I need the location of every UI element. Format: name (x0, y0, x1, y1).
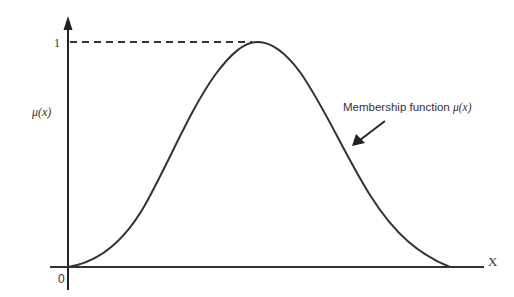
y-tick-label-1: 1 (54, 36, 60, 50)
y-axis-arrowhead (64, 16, 73, 30)
origin-label: 0 (58, 272, 65, 286)
annotation-arrow-line (360, 121, 385, 140)
annotation-text: Membership function (343, 101, 453, 113)
membership-function-diagram: 1 0 X μ(x) Membership function μ(x) (0, 0, 514, 297)
y-axis-label: μ(x) (31, 105, 51, 119)
annotation-arrowhead (352, 134, 365, 146)
annotation-math: μ(x) (452, 101, 472, 114)
x-axis-label: X (488, 254, 498, 269)
membership-curve (68, 42, 450, 267)
annotation-label: Membership function μ(x) (343, 101, 472, 114)
